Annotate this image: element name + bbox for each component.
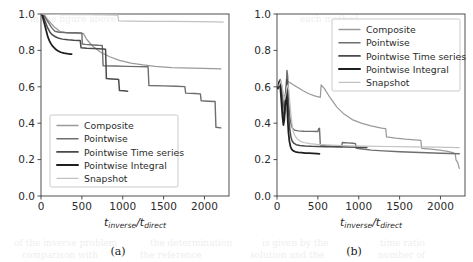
legend: CompositePointwisePointwise Time seriesP… <box>50 115 184 187</box>
panel-a-caption: (a) <box>0 245 236 258</box>
legend-label-pointwise-integral: Pointwise Integral <box>366 64 449 75</box>
figure-two-panel: 05001000150020000.00.20.40.60.81.0tinver… <box>0 0 473 262</box>
y-tick-label: 1.0 <box>18 8 35 20</box>
legend-label-pointwise-time-series: Pointwise Time series <box>366 51 466 62</box>
x-tick-label: 1000 <box>345 200 372 212</box>
x-tick-label: 500 <box>72 200 92 212</box>
y-tick-label: 0.8 <box>254 44 271 56</box>
y-tick-label: 0.4 <box>254 117 271 129</box>
panel-b: 05001000150020000.00.20.40.60.81.0tinver… <box>236 0 472 262</box>
legend-label-composite: Composite <box>366 24 416 35</box>
y-tick-label: 0.6 <box>18 81 35 93</box>
series-line-pointwise-integral <box>278 82 320 154</box>
legend-label-pointwise-time-series: Pointwise Time series <box>84 147 184 158</box>
plot-a-canvas: 05001000150020000.00.20.40.60.81.0tinver… <box>0 0 236 240</box>
legend-label-pointwise: Pointwise <box>84 133 128 144</box>
legend-label-pointwise-integral: Pointwise Integral <box>84 160 167 171</box>
legend-label-pointwise: Pointwise <box>366 37 410 48</box>
series-line-pointwise-integral <box>41 14 71 54</box>
series-line-snapshot <box>41 14 223 22</box>
legend: CompositePointwisePointwise Time seriesP… <box>332 19 466 91</box>
y-tick-label: 0.0 <box>254 190 271 202</box>
x-tick-label: 0 <box>38 200 45 212</box>
panel-a: 05001000150020000.00.20.40.60.81.0tinver… <box>0 0 236 262</box>
x-tick-label: 500 <box>308 200 328 212</box>
x-axis-label: tinverse/tdirect <box>104 216 167 230</box>
y-tick-label: 1.0 <box>254 8 271 20</box>
svg-text:tinverse/tdirect: tinverse/tdirect <box>104 216 167 230</box>
panel-b-caption: (b) <box>236 245 472 258</box>
legend-label-snapshot: Snapshot <box>366 77 410 88</box>
legend-label-composite: Composite <box>84 120 134 131</box>
y-tick-label: 0.4 <box>18 117 35 129</box>
x-tick-label: 1500 <box>150 200 177 212</box>
series-line-pointwise <box>41 14 220 128</box>
y-tick-label: 0.6 <box>254 81 271 93</box>
x-tick-label: 0 <box>274 200 281 212</box>
x-tick-label: 1000 <box>109 200 136 212</box>
svg-text:tinverse/tdirect: tinverse/tdirect <box>340 216 403 230</box>
x-tick-label: 2000 <box>191 200 218 212</box>
plot-b-canvas: 05001000150020000.00.20.40.60.81.0tinver… <box>236 0 472 240</box>
legend-label-snapshot: Snapshot <box>84 173 128 184</box>
series-group <box>41 14 223 128</box>
y-tick-label: 0.2 <box>18 153 35 165</box>
x-axis-label: tinverse/tdirect <box>340 216 403 230</box>
x-tick-label: 2000 <box>427 200 454 212</box>
y-tick-label: 0.2 <box>254 153 271 165</box>
y-tick-label: 0.8 <box>18 44 35 56</box>
series-line-pointwise-time-series <box>41 14 127 91</box>
y-tick-label: 0.0 <box>18 190 35 202</box>
series-line-composite <box>279 82 460 169</box>
x-tick-label: 1500 <box>386 200 413 212</box>
